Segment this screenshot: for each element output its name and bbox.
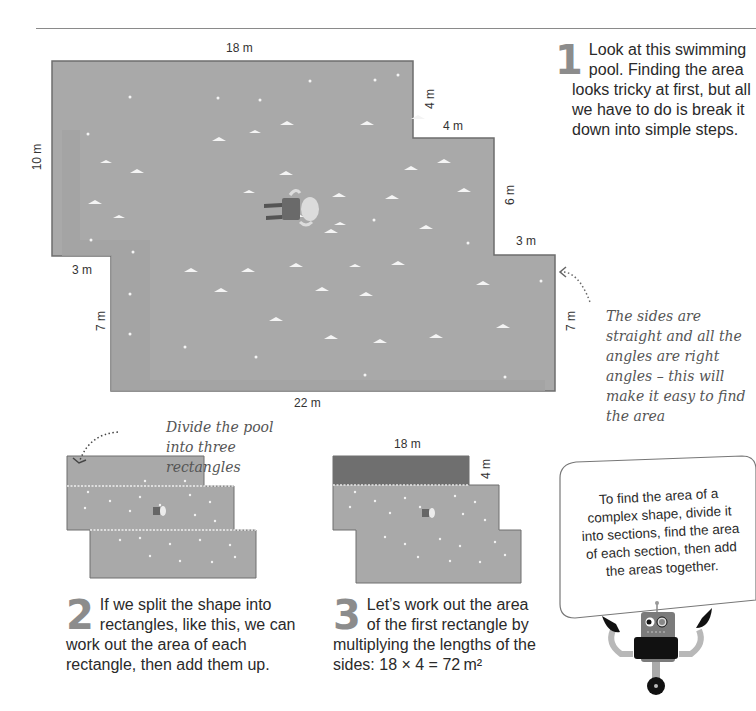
step-number: 2 xyxy=(66,597,94,633)
robot-mascot-icon xyxy=(602,601,712,695)
step3-top-label: 18 m xyxy=(394,437,421,451)
step-text: Let’s work out the area of the first rec… xyxy=(333,596,536,673)
dim-bottom: 22 m xyxy=(294,396,321,410)
dim-top: 18 m xyxy=(226,41,253,55)
dim-top-step-vertical: 4 m xyxy=(423,89,437,109)
dim-top-step-horizontal: 4 m xyxy=(443,119,463,133)
callout-text: To find the area of a complex shape, div… xyxy=(576,484,745,583)
dotted-arrow-icon xyxy=(560,267,590,302)
step-text: Look at this swimming pool. Finding the … xyxy=(572,41,751,138)
dim-right-lower: 7 m xyxy=(564,311,578,331)
step3-side-label: 4 m xyxy=(479,459,493,479)
step-1: 1 Look at this swimming pool. Finding th… xyxy=(572,40,752,140)
step-3: 3 Let’s work out the area of the first r… xyxy=(333,595,543,675)
step-number: 1 xyxy=(555,42,583,78)
step-number: 3 xyxy=(333,597,361,633)
step-2: 2 If we split the shape into rectangles,… xyxy=(66,595,316,675)
dim-right-upper: 6 m xyxy=(503,185,517,205)
dim-left-lower: 7 m xyxy=(94,311,108,331)
divide-note: Divide the pool into three rectangles xyxy=(166,417,296,477)
dim-left: 10 m xyxy=(30,144,44,171)
step-text: If we split the shape into rectangles, l… xyxy=(66,596,296,673)
sides-note: The sides are straight and all the angle… xyxy=(606,306,756,426)
highlighted-rectangle xyxy=(333,456,469,485)
dim-right-step: 3 m xyxy=(516,234,536,248)
dim-left-step: 3 m xyxy=(72,263,92,277)
